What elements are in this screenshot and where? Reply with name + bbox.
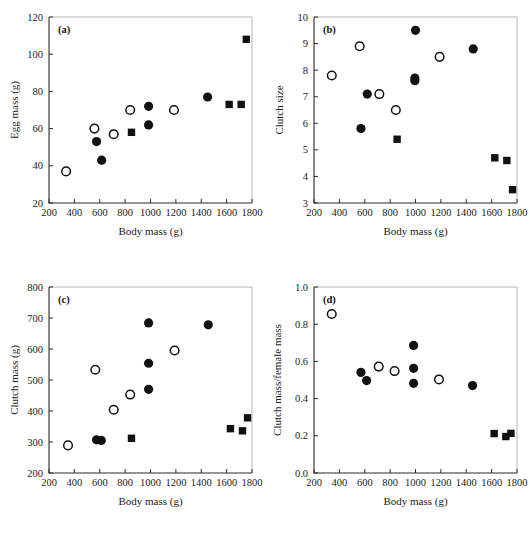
x-tick-label: 1000 — [405, 477, 426, 488]
panel-label: (c) — [58, 294, 70, 306]
x-tick-label: 800 — [382, 207, 398, 218]
data-point-filled-square — [128, 129, 135, 136]
x-tick-label: 1600 — [481, 207, 502, 218]
y-tick-label: 0.6 — [295, 356, 308, 367]
x-tick-label: 200 — [306, 477, 322, 488]
data-point-filled-circle — [204, 320, 213, 329]
x-tick-label: 1000 — [140, 207, 161, 218]
axis-frame — [49, 287, 252, 473]
y-tick-label: 60 — [33, 123, 44, 134]
data-point-open-circle — [374, 362, 383, 371]
y-tick-label: 120 — [27, 12, 43, 23]
y-tick-label: 0.4 — [295, 393, 309, 404]
data-point-open-circle — [126, 106, 135, 115]
y-tick-label: 9 — [303, 38, 308, 49]
data-point-open-circle — [392, 106, 401, 115]
data-point-filled-circle — [144, 102, 153, 111]
panel-label: (d) — [323, 294, 336, 306]
axis-spines — [49, 287, 252, 473]
data-point-filled-circle — [468, 381, 477, 390]
y-tick-label: 600 — [27, 344, 43, 355]
x-tick-label: 1800 — [242, 477, 263, 488]
panel-b-plot: 2004006008001000120014001600180034567891… — [265, 0, 530, 270]
data-point-filled-circle — [356, 368, 365, 377]
data-point-filled-circle — [144, 385, 153, 394]
x-tick-label: 1600 — [481, 477, 502, 488]
data-point-filled-square — [227, 425, 234, 432]
x-tick-label: 1400 — [456, 207, 477, 218]
x-tick-label: 600 — [92, 207, 108, 218]
x-tick-label: 600 — [357, 477, 373, 488]
data-point-open-circle — [435, 375, 444, 384]
data-point-filled-square — [507, 430, 514, 437]
data-point-open-circle — [170, 346, 179, 355]
y-tick-label: 0.2 — [295, 430, 308, 441]
y-tick-label: 6 — [303, 118, 308, 129]
panel-c-plot: 2004006008001000120014001600180020030040… — [0, 270, 265, 540]
x-axis-title: Body mass (g) — [383, 225, 448, 238]
data-point-open-circle — [90, 124, 99, 133]
y-tick-label: 7 — [303, 91, 308, 102]
data-point-filled-circle — [144, 318, 153, 327]
data-point-filled-circle — [144, 359, 153, 368]
panel-a-plot: 2004006008001000120014001600180020406080… — [0, 0, 265, 270]
x-tick-label: 1800 — [507, 207, 528, 218]
y-axis-title: Clutch mass (g) — [8, 345, 21, 415]
data-point-open-circle — [109, 405, 118, 414]
data-point-open-circle — [435, 53, 444, 62]
y-tick-label: 20 — [33, 198, 44, 209]
data-point-open-circle — [355, 42, 364, 51]
x-tick-label: 400 — [67, 477, 83, 488]
x-tick-label: 1000 — [140, 477, 161, 488]
x-tick-label: 1200 — [165, 207, 186, 218]
y-tick-label: 8 — [303, 65, 308, 76]
y-tick-label: 500 — [27, 375, 43, 386]
y-axis-title: Clutch size — [273, 85, 285, 134]
figure-container: 2004006008001000120014001600180020406080… — [0, 0, 530, 540]
x-tick-label: 200 — [41, 477, 57, 488]
data-point-filled-square — [491, 154, 498, 161]
data-point-open-circle — [109, 130, 118, 139]
x-axis-title: Body mass (g) — [383, 495, 448, 508]
data-point-open-circle — [91, 365, 100, 374]
data-point-filled-circle — [411, 26, 420, 35]
data-point-filled-square — [509, 186, 516, 193]
x-tick-label: 200 — [306, 207, 322, 218]
x-axis-title: Body mass (g) — [118, 225, 183, 238]
data-point-filled-circle — [92, 137, 101, 146]
y-tick-label: 5 — [303, 144, 308, 155]
data-point-filled-square — [490, 430, 497, 437]
data-point-open-circle — [170, 106, 179, 115]
data-point-filled-square — [393, 136, 400, 143]
data-point-filled-circle — [409, 379, 418, 388]
panel-d: 200400600800100012001400160018000.00.20.… — [265, 270, 530, 540]
x-axis-title: Body mass (g) — [118, 495, 183, 508]
axis-frame — [314, 17, 517, 203]
y-axis-title: Clutch mass/female mass — [271, 324, 283, 436]
y-tick-label: 400 — [27, 406, 43, 417]
panel-a: 2004006008001000120014001600180020406080… — [0, 0, 265, 270]
y-tick-label: 1.0 — [295, 282, 308, 293]
x-tick-label: 1400 — [456, 477, 477, 488]
panel-label: (a) — [58, 24, 71, 36]
x-tick-label: 600 — [92, 477, 108, 488]
x-tick-label: 400 — [332, 207, 348, 218]
y-tick-label: 0.0 — [295, 468, 308, 479]
data-point-filled-circle — [144, 120, 153, 129]
data-point-open-circle — [390, 367, 399, 376]
data-point-filled-square — [503, 157, 510, 164]
axis-spines — [314, 17, 517, 203]
y-tick-label: 4 — [303, 171, 309, 182]
y-tick-label: 200 — [27, 468, 43, 479]
x-tick-label: 800 — [382, 477, 398, 488]
data-point-filled-square — [239, 427, 246, 434]
x-tick-label: 400 — [332, 477, 348, 488]
data-point-filled-square — [244, 414, 251, 421]
x-tick-label: 1800 — [242, 207, 263, 218]
x-tick-label: 1800 — [507, 477, 528, 488]
panel-d-plot: 200400600800100012001400160018000.00.20.… — [265, 270, 530, 540]
x-tick-label: 600 — [357, 207, 373, 218]
x-tick-label: 1200 — [430, 477, 451, 488]
y-tick-label: 0.8 — [295, 319, 308, 330]
data-point-filled-circle — [409, 364, 418, 373]
